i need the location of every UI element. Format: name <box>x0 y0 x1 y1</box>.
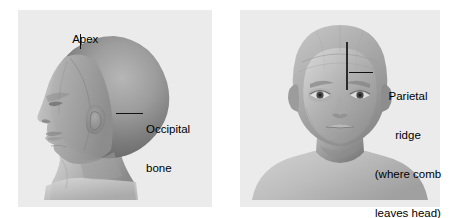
anatomy-figure: Apex Occipital bone Parietal ridge (wher… <box>0 0 450 218</box>
label-occipital-bone-line1: Occipital <box>146 123 190 136</box>
label-occipital-bone-line2: bone <box>146 162 190 175</box>
leader-line-occipital-bone <box>116 113 143 114</box>
label-parietal-ridge: Parietal ridge (where comb leaves head) <box>370 64 446 218</box>
comb-line <box>346 42 348 90</box>
label-occipital-bone: Occipital bone <box>146 97 190 201</box>
label-apex: Apex <box>60 20 98 59</box>
label-apex-text: Apex <box>72 33 98 45</box>
label-parietal-ridge-line4: leaves head) <box>370 207 446 218</box>
label-parietal-ridge-line1: Parietal <box>370 90 446 103</box>
label-parietal-ridge-line2: ridge <box>370 129 446 142</box>
label-parietal-ridge-line3: (where comb <box>370 168 446 181</box>
